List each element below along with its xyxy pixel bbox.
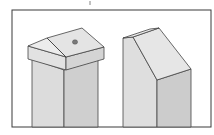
cap-hole-icon (72, 40, 77, 44)
fence-posts-diagram (0, 0, 214, 135)
post-right-face (64, 60, 98, 127)
pitched-cap-post (28, 28, 104, 127)
post-left-face (32, 59, 64, 127)
illustration (0, 0, 214, 135)
